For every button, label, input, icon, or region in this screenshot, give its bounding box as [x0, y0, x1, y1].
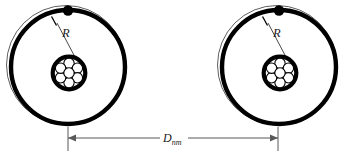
- nucleus: [53, 57, 86, 90]
- nucleon: [275, 68, 285, 78]
- figure-canvas: R R: [0, 0, 346, 156]
- nucleon-cluster: [55, 58, 82, 88]
- arrowhead-right-icon: [270, 135, 278, 142]
- electron-dot: [274, 5, 284, 15]
- distance-label-base: D: [162, 131, 172, 145]
- nucleon-cluster: [266, 58, 293, 88]
- distance-label: Dnm: [162, 131, 182, 147]
- nucleus: [264, 57, 297, 90]
- left-atom: R: [7, 5, 126, 124]
- orbit-tick-mark: [52, 17, 57, 26]
- arrowhead-left-icon: [68, 135, 76, 142]
- separation-dimension: Dnm: [68, 127, 278, 151]
- radius-label-right: R: [272, 26, 281, 40]
- radius-label-left: R: [61, 26, 70, 40]
- distance-label-subscript: nm: [172, 138, 182, 147]
- atomic-separation-figure: R R: [0, 0, 346, 156]
- nucleon: [64, 68, 74, 78]
- right-atom: R: [218, 5, 337, 124]
- orbit-tick-mark: [263, 17, 268, 26]
- electron-dot: [63, 5, 73, 15]
